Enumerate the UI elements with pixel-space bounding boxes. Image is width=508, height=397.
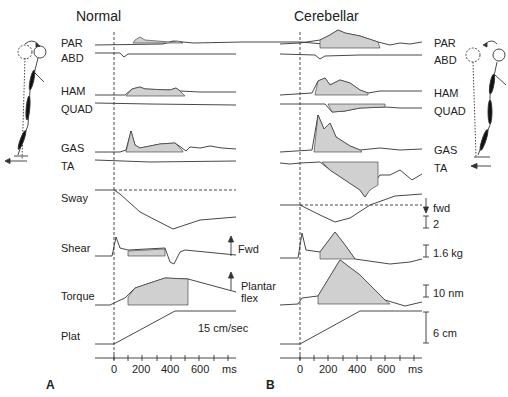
traces-figure: [0, 0, 508, 397]
stick-figure-a: [5, 41, 46, 164]
stick-figure-b: [466, 41, 506, 169]
